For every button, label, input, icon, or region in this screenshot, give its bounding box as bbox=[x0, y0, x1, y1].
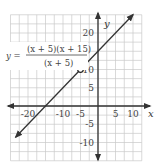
x-tick-label: 5 bbox=[113, 109, 119, 119]
equation-lhs: y = bbox=[5, 51, 21, 61]
y-tick-label: -5 bbox=[85, 119, 94, 129]
equation-denominator: (x + 5) bbox=[44, 58, 73, 68]
x-tick-label: 10 bbox=[127, 109, 139, 119]
x-tick-label: -10 bbox=[56, 109, 71, 119]
function-graph: -20-10-5510-10-551020 x y y = (x + 5)(x … bbox=[0, 0, 158, 167]
y-tick-label: 5 bbox=[88, 83, 94, 93]
x-axis-label: x bbox=[148, 108, 154, 119]
grid bbox=[11, 15, 142, 161]
equation-numerator: (x + 5)(x + 15) bbox=[27, 44, 91, 54]
y-axis-label: y bbox=[103, 18, 110, 29]
x-tick-label: -20 bbox=[21, 109, 36, 119]
x-tick-label: -5 bbox=[76, 109, 85, 119]
equation-annotation: y = (x + 5)(x + 15) (x + 5) bbox=[4, 42, 91, 70]
y-tick-label: 20 bbox=[83, 28, 95, 38]
y-tick-label: -10 bbox=[80, 138, 95, 148]
